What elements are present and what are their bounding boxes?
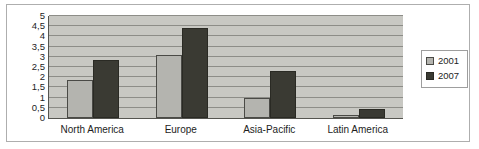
- category-label: Europe: [137, 123, 226, 137]
- category-label: North America: [48, 123, 137, 137]
- legend-label: 2007: [438, 71, 459, 81]
- y-axis: 54,543,532,521,510,50: [21, 10, 45, 125]
- legend: 20012007: [421, 50, 468, 88]
- bar-2007-latin-america: [359, 109, 385, 118]
- legend-item-2007[interactable]: 2007: [426, 70, 463, 82]
- bar-group: [138, 16, 227, 118]
- bar-2001-north-america: [67, 80, 93, 118]
- y-tick-label: 0: [40, 113, 45, 123]
- x-axis-category-labels: North AmericaEuropeAsia-PacificLatin Ame…: [48, 123, 404, 139]
- chart-frame: 54,543,532,521,510,50 North AmericaEurop…: [6, 4, 470, 142]
- bar-2007-asia-pacific: [270, 71, 296, 118]
- bars-layer: [49, 16, 403, 118]
- bar-2001-europe: [156, 55, 182, 118]
- bar-group: [226, 16, 315, 118]
- y-tick-label: 1,5: [32, 82, 45, 92]
- y-tick-label: 4: [40, 31, 45, 41]
- bar-2007-europe: [182, 28, 208, 118]
- bar-group: [49, 16, 138, 118]
- legend-swatch-icon: [426, 57, 434, 65]
- category-label: Asia-Pacific: [225, 123, 314, 137]
- plot-area: [48, 16, 403, 119]
- bar-group: [315, 16, 404, 118]
- legend-label: 2001: [438, 56, 459, 66]
- legend-swatch-icon: [426, 72, 434, 80]
- bar-2001-asia-pacific: [244, 98, 270, 118]
- bar-2007-north-america: [93, 60, 119, 118]
- legend-item-2001[interactable]: 2001: [426, 55, 463, 67]
- category-label: Latin America: [314, 123, 403, 137]
- bar-2001-latin-america: [333, 115, 359, 118]
